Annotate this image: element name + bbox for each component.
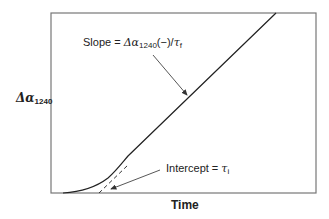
slope-prefix: Slope = bbox=[83, 36, 124, 48]
slope-arrow bbox=[153, 55, 187, 95]
y-axis-label: Δα1240 bbox=[16, 91, 52, 106]
extrapolation-dashed-line bbox=[99, 165, 128, 193]
x-axis-label: Time bbox=[171, 198, 199, 212]
intercept-tau-subscript: i bbox=[227, 167, 229, 176]
intercept-arrow bbox=[111, 170, 160, 189]
intercept-annotation: Intercept = τi bbox=[166, 162, 229, 176]
y-axis-symbol: Δα bbox=[16, 91, 35, 105]
slope-subscript: 1240 bbox=[139, 41, 157, 50]
slope-symbol: Δα bbox=[124, 36, 139, 49]
y-axis-subscript: 1240 bbox=[35, 97, 53, 106]
slope-annotation: Slope = Δα1240(−)/τf bbox=[83, 36, 182, 50]
slope-tau-subscript: f bbox=[180, 41, 182, 50]
intercept-prefix: Intercept = bbox=[166, 162, 221, 174]
slope-mid: (−)/ bbox=[157, 36, 174, 48]
chart-canvas bbox=[0, 0, 329, 219]
